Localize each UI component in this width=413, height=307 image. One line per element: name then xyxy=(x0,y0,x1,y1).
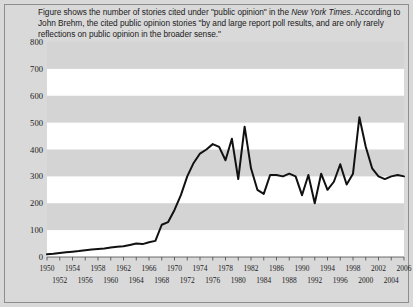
svg-text:0: 0 xyxy=(39,252,43,262)
svg-text:200: 200 xyxy=(30,198,43,208)
svg-text:1956: 1956 xyxy=(78,276,93,285)
svg-text:2000: 2000 xyxy=(358,276,373,285)
svg-text:1998: 1998 xyxy=(346,264,361,273)
svg-text:1990: 1990 xyxy=(295,264,310,273)
svg-text:700: 700 xyxy=(30,64,43,74)
svg-text:1992: 1992 xyxy=(307,276,322,285)
svg-text:800: 800 xyxy=(30,37,43,47)
svg-text:1970: 1970 xyxy=(167,264,182,273)
chart-x-axis-labels: 1950195419581962196619701974197819821986… xyxy=(40,264,412,285)
svg-text:1986: 1986 xyxy=(269,264,284,273)
svg-text:500: 500 xyxy=(30,118,43,128)
chart-plot-area: 0100200300400500600700800 19501954195819… xyxy=(0,0,413,307)
svg-text:1964: 1964 xyxy=(129,276,144,285)
svg-text:300: 300 xyxy=(30,171,43,181)
svg-text:1960: 1960 xyxy=(103,276,118,285)
svg-text:1968: 1968 xyxy=(154,276,169,285)
svg-text:1996: 1996 xyxy=(333,276,348,285)
svg-text:1982: 1982 xyxy=(244,264,259,273)
svg-text:1972: 1972 xyxy=(180,276,195,285)
svg-text:1978: 1978 xyxy=(218,264,233,273)
svg-text:1950: 1950 xyxy=(40,264,55,273)
svg-text:1966: 1966 xyxy=(142,264,157,273)
line-chart-svg: 0100200300400500600700800 19501954195819… xyxy=(0,0,413,307)
svg-text:1994: 1994 xyxy=(320,264,335,273)
chart-y-axis-labels: 0100200300400500600700800 xyxy=(30,37,43,262)
svg-text:1976: 1976 xyxy=(205,276,220,285)
svg-text:1980: 1980 xyxy=(231,276,246,285)
svg-text:1962: 1962 xyxy=(116,264,131,273)
svg-text:600: 600 xyxy=(30,91,43,101)
svg-text:100: 100 xyxy=(30,225,43,235)
svg-text:1954: 1954 xyxy=(65,264,80,273)
svg-text:2002: 2002 xyxy=(371,264,386,273)
svg-text:1988: 1988 xyxy=(282,276,297,285)
svg-text:1952: 1952 xyxy=(52,276,67,285)
svg-text:400: 400 xyxy=(30,145,43,155)
svg-text:2004: 2004 xyxy=(384,276,399,285)
svg-text:1984: 1984 xyxy=(256,276,271,285)
svg-text:1958: 1958 xyxy=(91,264,106,273)
chart-background-bands xyxy=(47,42,404,257)
chart-x-tickmarks xyxy=(47,257,404,261)
svg-text:2006: 2006 xyxy=(397,264,412,273)
figure-container: Figure shows the number of stories cited… xyxy=(0,0,413,307)
svg-text:1974: 1974 xyxy=(193,264,208,273)
